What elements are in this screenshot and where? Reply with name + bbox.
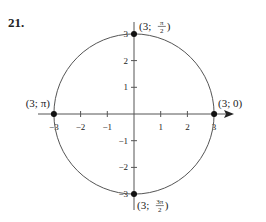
fraction-numerator: 3π (156, 198, 164, 206)
point-label: (3; π2) (139, 19, 171, 35)
fraction-numerator: π (160, 19, 164, 27)
x-tick-label: −2 (76, 122, 86, 132)
y-tick-label: −1 (118, 136, 128, 146)
point-marker (211, 111, 217, 117)
point-marker (131, 31, 137, 37)
point-label-suffix: ) (167, 20, 171, 33)
x-tick-label: −1 (103, 122, 113, 132)
point-label-prefix: (3; (139, 20, 151, 33)
axes (38, 22, 234, 210)
point-label: (3; 3π2) (137, 198, 169, 214)
polar-points-diagram: 21. −3−2−1123−3−2−1123 (3; 0)(3; π2)(3; … (0, 0, 266, 222)
x-tick-label: 1 (158, 122, 163, 132)
point-label-suffix: ) (165, 199, 169, 212)
point-label-prefix: (3; (137, 199, 149, 212)
fraction-denominator: 2 (158, 206, 162, 214)
y-tick-label: −2 (118, 162, 128, 172)
point-marker (51, 111, 57, 117)
fraction-denominator: 2 (160, 27, 164, 35)
problem-number: 21. (8, 15, 24, 30)
point-label: (3; 0) (218, 97, 242, 110)
point-label: (3; π) (26, 97, 51, 110)
y-tick-label: 2 (124, 56, 129, 66)
y-tick-label: 1 (124, 82, 129, 92)
point-marker (131, 191, 137, 197)
x-tick-label: 2 (185, 122, 190, 132)
